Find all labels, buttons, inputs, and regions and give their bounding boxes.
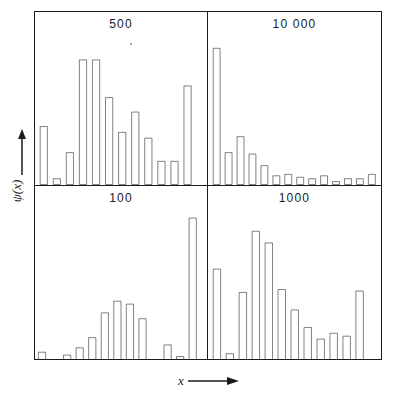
histogram-bar	[273, 176, 280, 185]
histogram-bar	[66, 153, 73, 185]
histogram-bar	[213, 48, 220, 184]
histogram-bar	[291, 309, 298, 359]
histogram-bar	[304, 327, 311, 359]
histogram-bar	[252, 231, 259, 359]
histogram-bar	[330, 333, 337, 359]
right-arrow-icon	[188, 375, 240, 387]
panel-10000: 10 000	[208, 12, 381, 186]
histogram-bar	[368, 174, 375, 184]
histogram-bar	[226, 353, 233, 359]
histogram-bar	[79, 60, 86, 185]
plot-area-10000	[208, 12, 381, 185]
panel-100: 100	[35, 186, 208, 360]
histogram-bar	[344, 179, 351, 185]
histogram-bar	[89, 337, 96, 359]
histogram-bar	[356, 291, 363, 359]
histogram-bar	[265, 242, 272, 359]
y-axis-label: ψ(x)	[6, 162, 28, 220]
histogram-bar	[343, 336, 350, 359]
histogram-bar	[38, 352, 45, 359]
x-axis-label: x	[178, 373, 184, 389]
histogram-bar	[126, 304, 133, 359]
panel-1000: 1000	[208, 186, 381, 360]
histogram-bar	[139, 318, 146, 359]
histogram-bar	[225, 153, 232, 185]
histogram-bar	[114, 301, 121, 359]
histogram-bar	[40, 127, 47, 185]
histogram-bar	[53, 179, 60, 185]
plot-area-500	[35, 12, 207, 185]
histogram-10000	[208, 12, 381, 185]
histogram-bar	[132, 112, 139, 184]
panel-500: 500	[35, 12, 208, 186]
histogram-bar	[321, 176, 328, 185]
histogram-bar	[184, 86, 191, 185]
histogram-bar	[285, 174, 292, 184]
histogram-bar	[145, 138, 152, 184]
histogram-bar	[249, 154, 256, 184]
plot-area-1000	[208, 186, 381, 360]
histogram-bar	[317, 339, 324, 359]
y-axis-label-group: ψ(x)	[2, 128, 32, 238]
histogram-bar	[101, 312, 108, 359]
histogram-bar	[171, 161, 178, 184]
histogram-bar	[158, 161, 165, 184]
histogram-bar	[239, 292, 246, 359]
panel-grid: 500 10 000 100 1000	[34, 11, 382, 360]
histogram-bar	[261, 166, 268, 185]
x-axis-label-group: x	[178, 370, 288, 392]
histogram-bar	[177, 356, 184, 359]
histogram-bar	[297, 177, 304, 184]
plot-area-100	[35, 186, 207, 360]
histogram-bar	[92, 60, 99, 185]
histogram-bar	[119, 132, 126, 184]
histogram-bar	[278, 289, 285, 359]
histogram-bar	[356, 179, 363, 185]
histogram-100	[35, 186, 207, 360]
histogram-bar	[213, 269, 220, 359]
histogram-bar	[333, 182, 340, 185]
histogram-bar	[76, 347, 83, 359]
histogram-500	[35, 12, 207, 185]
histogram-bar	[189, 218, 196, 359]
histogram-bar	[309, 179, 316, 185]
speck-mark	[130, 43, 132, 45]
figure-root: ψ(x) x 500 10 000 100	[0, 0, 395, 397]
histogram-bar	[164, 344, 171, 359]
histogram-bar	[237, 137, 244, 185]
histogram-bar	[64, 355, 71, 359]
histogram-1000	[208, 186, 381, 360]
histogram-bar	[106, 98, 113, 185]
